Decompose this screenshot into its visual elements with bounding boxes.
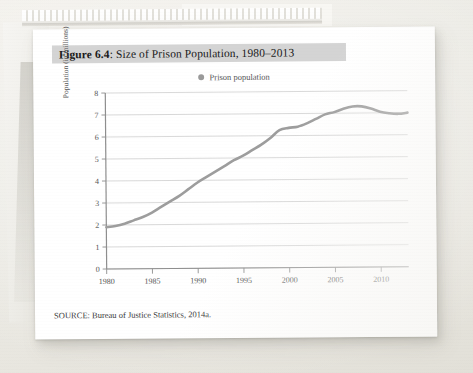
y-tick-label: 8: [94, 89, 98, 98]
y-axis-spine: [105, 93, 106, 269]
x-tick-label: 1990: [190, 276, 206, 285]
legend-dot-icon: [199, 74, 205, 80]
figure-card: Figure 6.4: Size of Prison Population, 1…: [33, 26, 437, 339]
y-tick-label: 7: [94, 111, 98, 120]
y-tick-label: 3: [95, 199, 99, 208]
line-chart-svg: 0123456781980198519901995200020052010: [63, 85, 417, 300]
y-tick-label: 1: [95, 243, 99, 252]
y-tick-label: 6: [95, 133, 99, 142]
y-gridline: [105, 91, 407, 93]
figure-title-banner: Figure 6.4: Size of Prison Population, 1…: [52, 43, 346, 63]
y-gridline: [106, 157, 408, 159]
source-note: SOURCE: Bureau of Justice Statistics, 20…: [54, 309, 211, 320]
x-tick-label: 2010: [373, 275, 389, 284]
data-series-line: [105, 106, 408, 227]
y-gridline: [106, 223, 408, 225]
chart-legend: Prison population: [33, 70, 435, 83]
x-tick-label: 1985: [144, 277, 160, 286]
legend-label: Prison population: [210, 72, 270, 82]
x-axis-spine: [107, 267, 409, 269]
chart-plot-area: Population (in millions) 012345678198019…: [63, 85, 417, 300]
y-tick-label: 0: [96, 265, 100, 274]
x-tick-label: 1980: [99, 277, 115, 286]
x-tick-label: 2005: [328, 275, 344, 284]
y-gridline: [106, 179, 408, 181]
y-tick-label: 4: [95, 177, 99, 186]
y-gridline: [106, 135, 408, 137]
y-gridline: [106, 245, 408, 247]
y-gridline: [105, 113, 407, 115]
x-tick-label: 1995: [236, 276, 252, 285]
y-tick-label: 5: [95, 155, 99, 164]
figure-caption: Figure 6.4: Size of Prison Population, 1…: [59, 47, 294, 61]
x-tick-label: 2000: [282, 276, 298, 285]
figure-caption-text: Size of Prison Population, 1980–2013: [113, 47, 294, 60]
y-tick-label: 2: [95, 221, 99, 230]
y-gridline: [106, 201, 408, 203]
